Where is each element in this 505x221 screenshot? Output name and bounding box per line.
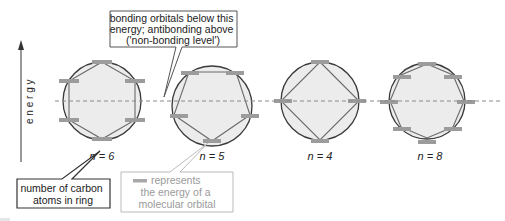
ring-label-n8: n = 8 [418,150,444,162]
frost-circle-diagram: e n e r g y [0,0,505,221]
energy-axis: e n e r g y [18,40,35,162]
callout-carbon-line2: atoms in ring [33,194,93,206]
ring-label-n4: n = 4 [308,150,333,162]
legend-line2: the energy of a [141,186,211,198]
ring-n5 [170,66,259,146]
arrow-up-icon [18,40,24,50]
corner-mark [0,218,10,221]
svg-text:bonding orbitals below this: bonding orbitals below this energy; anti… [110,12,237,46]
ring-n8 [380,62,475,144]
ring-label-n5: n = 5 [200,150,226,162]
orbital-swatch [133,179,147,183]
axis-label: e n e r g y [24,80,35,124]
legend-line1: represents [151,174,201,186]
svg-text:number of carbon atoms i: number of carbon atoms in ring [20,182,105,206]
legend-line3: molecular orbital [138,198,215,210]
callout-nonbonding-line3: ('non-bonding level') [126,34,220,46]
callout-carbon-line1: number of carbon [20,182,102,194]
